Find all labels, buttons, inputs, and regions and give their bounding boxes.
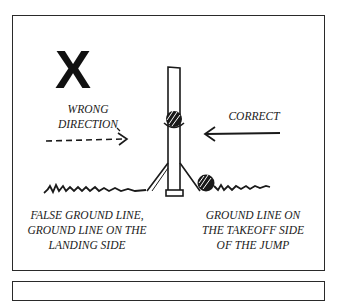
correct-direction-arrow-icon [205,127,280,141]
left-caption-line1: FALSE GROUND LINE, [22,208,152,223]
jump-standard-icon [147,67,200,196]
left-caption: FALSE GROUND LINE, GROUND LINE ON THE LA… [22,208,152,253]
ground-ball-icon [198,175,215,192]
wrong-x-icon: X [55,44,91,94]
correct-label: CORRECT [222,109,286,124]
false-ground-line [44,185,146,193]
wrong-label-line2: DIRECTION [48,117,128,132]
left-caption-line3: LANDING SIDE [22,238,152,253]
takeoff-ground-line [214,185,270,190]
right-caption-line3: OF THE JUMP [188,238,318,253]
left-caption-line2: GROUND LINE ON THE [22,223,152,238]
wrong-direction-label: WRONG DIRECTION [48,102,128,132]
right-caption: GROUND LINE ON THE TAKEOFF SIDE OF THE J… [188,208,318,253]
wrong-label-line1: WRONG [48,102,128,117]
pole-ball-icon [164,111,184,128]
right-caption-line1: GROUND LINE ON [188,208,318,223]
right-caption-line2: THE TAKEOFF SIDE [188,223,318,238]
